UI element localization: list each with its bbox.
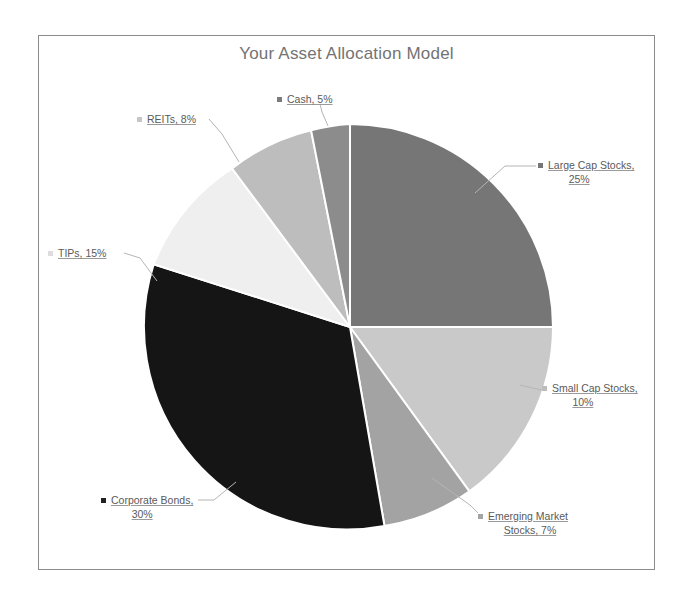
marker-tips <box>48 251 53 256</box>
marker-small-cap-stocks <box>542 386 547 391</box>
label-value-small-cap-stocks: 10% <box>572 396 593 408</box>
label-value-emerging-market-stocks: Stocks, 7% <box>504 524 557 536</box>
label-cash: Cash, 5% <box>277 92 333 106</box>
label-corporate-bonds: Corporate Bonds, 30% <box>101 493 193 521</box>
label-large-cap-stocks: Large Cap Stocks, 25% <box>538 158 634 186</box>
pie-slices <box>144 124 553 529</box>
pie-chart-container: Your Asset Allocation Model Large Cap St… <box>0 0 695 603</box>
label-small-cap-stocks: Small Cap Stocks, 10% <box>542 381 638 409</box>
label-emerging-market-stocks: Emerging Market Stocks, 7% <box>478 509 568 537</box>
label-value-corporate-bonds: 30% <box>132 508 153 520</box>
label-text-small-cap-stocks: Small Cap Stocks, <box>552 382 638 394</box>
slice-large-cap-stocks[interactable] <box>350 124 553 327</box>
label-text-large-cap-stocks: Large Cap Stocks, <box>548 159 634 171</box>
label-text-cash: Cash, 5% <box>287 93 333 105</box>
label-text-reits: REITs, 8% <box>147 113 196 125</box>
label-text-tips: TIPs, 15% <box>58 247 106 259</box>
marker-large-cap-stocks <box>538 163 543 168</box>
marker-reits <box>137 117 142 122</box>
label-text-corporate-bonds: Corporate Bonds, <box>111 494 193 506</box>
marker-emerging-market-stocks <box>478 514 483 519</box>
label-tips: TIPs, 15% <box>48 246 106 260</box>
marker-cash <box>277 97 282 102</box>
label-text-emerging-market-stocks: Emerging Market <box>488 510 568 522</box>
leader-line-reits <box>209 119 239 162</box>
marker-corporate-bonds <box>101 498 106 503</box>
leader-line-cash <box>320 104 328 126</box>
label-value-large-cap-stocks: 25% <box>569 173 590 185</box>
label-reits: REITs, 8% <box>137 112 196 126</box>
